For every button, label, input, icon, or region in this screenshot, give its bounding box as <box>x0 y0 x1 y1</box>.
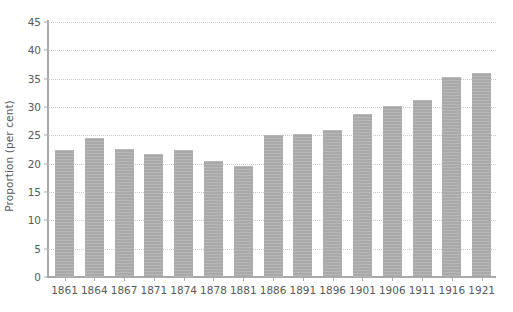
x-tick-label: 1916 <box>438 285 465 296</box>
x-tick-label: 1891 <box>289 285 316 296</box>
bar <box>442 77 461 277</box>
x-tick-mark <box>213 277 214 281</box>
x-tick-mark <box>422 277 423 281</box>
bar <box>472 73 491 277</box>
bar <box>55 150 74 278</box>
bar <box>353 114 372 277</box>
bar <box>115 149 134 277</box>
bar <box>413 100 432 277</box>
y-tick-label: 40 <box>28 45 41 56</box>
x-tick-label: 1861 <box>51 285 78 296</box>
x-tick-label: 1871 <box>141 285 168 296</box>
x-tick-mark <box>94 277 95 281</box>
y-tick-label: 45 <box>28 17 41 28</box>
bar <box>293 134 312 277</box>
x-tick-label: 1886 <box>260 285 287 296</box>
y-tick-label: 35 <box>28 73 41 84</box>
bar <box>323 130 342 277</box>
x-tick-mark <box>303 277 304 281</box>
x-tick-label: 1874 <box>170 285 197 296</box>
x-tick-label: 1864 <box>81 285 108 296</box>
x-tick-label: 1911 <box>409 285 436 296</box>
x-tick-label: 1906 <box>379 285 406 296</box>
bar <box>264 135 283 277</box>
x-tick-mark <box>482 277 483 281</box>
bar <box>204 161 223 277</box>
bar <box>144 154 163 277</box>
y-tick-label: 0 <box>34 272 41 283</box>
x-tick-label: 1921 <box>468 285 495 296</box>
x-tick-label: 1901 <box>349 285 376 296</box>
x-tick-mark <box>154 277 155 281</box>
y-axis-title: Proportion (per cent) <box>0 0 18 312</box>
y-tick-label: 15 <box>28 187 41 198</box>
x-tick-label: 1867 <box>111 285 138 296</box>
x-tick-mark <box>124 277 125 281</box>
x-tick-mark <box>184 277 185 281</box>
y-tick-label: 25 <box>28 130 41 141</box>
bar <box>174 150 193 277</box>
x-tick-mark <box>452 277 453 281</box>
y-tick-label: 20 <box>28 158 41 169</box>
x-tick-mark <box>362 277 363 281</box>
x-tick-mark <box>65 277 66 281</box>
x-tick-mark <box>392 277 393 281</box>
plot-area: 051015202530354045 186118641867187118741… <box>48 22 496 277</box>
x-tick-label: 1878 <box>200 285 227 296</box>
bar <box>383 106 402 277</box>
y-tick-label: 5 <box>34 243 41 254</box>
bar-chart: Proportion (per cent) 051015202530354045… <box>0 0 513 312</box>
x-tick-mark <box>243 277 244 281</box>
y-tick-label: 30 <box>28 102 41 113</box>
x-tick-label: 1896 <box>319 285 346 296</box>
x-tick-mark <box>333 277 334 281</box>
x-tick-mark <box>273 277 274 281</box>
bar <box>85 138 104 277</box>
y-tick-label: 10 <box>28 215 41 226</box>
bar-series <box>48 22 496 277</box>
x-tick-label: 1881 <box>230 285 257 296</box>
bar <box>234 166 253 277</box>
